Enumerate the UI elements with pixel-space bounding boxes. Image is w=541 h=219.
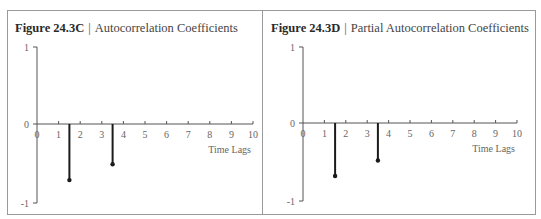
y-tick-label: 1 bbox=[24, 42, 29, 53]
x-tick-label: 0 bbox=[35, 129, 40, 140]
x-tick-label: 7 bbox=[186, 129, 191, 140]
x-tick-label: 2 bbox=[78, 129, 83, 140]
stem-marker bbox=[333, 174, 337, 178]
x-axis-title: Time Lags bbox=[472, 143, 515, 154]
stem-chart-partial-autocorrelation: 10-1012345678910Time Lags bbox=[263, 10, 536, 215]
y-tick-label: 0 bbox=[24, 119, 29, 130]
x-tick-label: 0 bbox=[301, 128, 306, 139]
y-tick-label: 1 bbox=[290, 42, 295, 53]
stem-marker bbox=[110, 162, 114, 166]
stem-chart-autocorrelation: 10-1012345678910Time Lags bbox=[7, 10, 263, 215]
x-tick-label: 7 bbox=[450, 128, 455, 139]
x-tick-label: 10 bbox=[512, 128, 522, 139]
x-tick-label: 2 bbox=[343, 128, 348, 139]
x-tick-label: 1 bbox=[322, 128, 327, 139]
x-tick-label: 10 bbox=[248, 129, 258, 140]
x-tick-label: 8 bbox=[472, 128, 477, 139]
y-tick-label: 0 bbox=[290, 118, 295, 129]
x-axis-title: Time Lags bbox=[208, 144, 251, 155]
x-tick-label: 4 bbox=[121, 129, 126, 140]
x-tick-label: 3 bbox=[99, 129, 104, 140]
stem-marker bbox=[67, 178, 71, 182]
chart-panel-partial-autocorrelation: Figure 24.3D|Partial Autocorrelation Coe… bbox=[263, 10, 536, 215]
x-tick-label: 6 bbox=[429, 128, 434, 139]
y-tick-label: -1 bbox=[21, 198, 29, 209]
x-tick-label: 9 bbox=[229, 129, 234, 140]
x-tick-label: 1 bbox=[56, 129, 61, 140]
x-tick-label: 9 bbox=[493, 128, 498, 139]
chart-panel-autocorrelation: Figure 24.3C|Autocorrelation Coefficient… bbox=[7, 10, 263, 215]
stem-marker bbox=[376, 158, 380, 162]
x-tick-label: 5 bbox=[143, 129, 148, 140]
x-tick-label: 8 bbox=[207, 129, 212, 140]
x-tick-label: 6 bbox=[164, 129, 169, 140]
x-tick-label: 3 bbox=[365, 128, 370, 139]
y-tick-label: -1 bbox=[287, 196, 295, 207]
x-tick-label: 5 bbox=[408, 128, 413, 139]
x-tick-label: 4 bbox=[386, 128, 391, 139]
